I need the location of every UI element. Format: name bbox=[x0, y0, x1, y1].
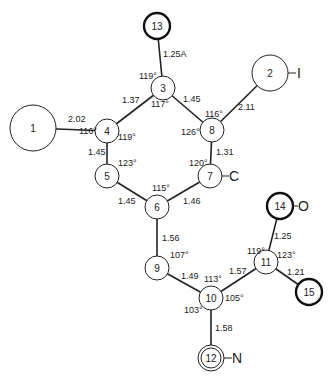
bond-length-4-5: 1.45 bbox=[88, 147, 106, 157]
element-label-carbon: C bbox=[229, 168, 239, 184]
svg-text:3: 3 bbox=[160, 83, 166, 94]
atom-4: 4 bbox=[95, 119, 119, 143]
angle-9: 107° bbox=[170, 250, 189, 260]
element-label-iodine: I bbox=[297, 65, 301, 81]
atom-12: 12 N bbox=[198, 345, 242, 371]
bond-length-4-3: 1.37 bbox=[122, 95, 140, 105]
atom-15: 15 bbox=[296, 279, 322, 305]
bond-length-labels: 2.02 1.37 1.25A 1.45 2.11 1.45 1.31 1.45… bbox=[68, 49, 305, 333]
angle-10-b: 105° bbox=[225, 293, 244, 303]
svg-text:7: 7 bbox=[207, 171, 213, 182]
svg-text:1: 1 bbox=[30, 123, 36, 134]
angle-11-b: 123° bbox=[277, 250, 296, 260]
bond-length-8-7: 1.31 bbox=[216, 147, 234, 157]
bond-length-10-12: 1.58 bbox=[215, 323, 233, 333]
bond-length-8-2: 2.11 bbox=[238, 102, 255, 112]
bond-length-11-14: 1.25 bbox=[274, 231, 292, 241]
angle-6: 115° bbox=[152, 183, 170, 193]
angle-11-a: 119° bbox=[247, 246, 265, 256]
angle-5: 123° bbox=[118, 158, 137, 168]
angle-3-a: 119° bbox=[139, 71, 157, 81]
element-label-oxygen: O bbox=[298, 198, 309, 214]
bond-length-9-10: 1.49 bbox=[181, 271, 199, 281]
angle-8-a: 116° bbox=[205, 109, 223, 119]
bond-length-3-8: 1.45 bbox=[183, 94, 201, 104]
svg-text:15: 15 bbox=[303, 287, 315, 298]
atom-1: 1 bbox=[10, 105, 56, 151]
molecular-structure-diagram: 1 2 I 3 4 5 6 7 C 8 9 10 11 bbox=[0, 0, 336, 382]
bond-length-6-9: 1.56 bbox=[162, 233, 180, 243]
svg-text:6: 6 bbox=[154, 202, 160, 213]
atom-2: 2 I bbox=[252, 55, 301, 91]
bond-length-11-15: 1.21 bbox=[287, 267, 305, 277]
angle-10-a: 113° bbox=[204, 274, 222, 284]
svg-text:8: 8 bbox=[209, 125, 215, 136]
atom-5: 5 bbox=[95, 164, 119, 188]
bond-length-5-6: 1.45 bbox=[118, 196, 136, 206]
angle-4-a: 116° bbox=[79, 126, 97, 136]
svg-text:11: 11 bbox=[261, 257, 272, 268]
bond-length-1-4: 2.02 bbox=[68, 114, 86, 124]
svg-text:4: 4 bbox=[104, 126, 110, 137]
svg-text:12: 12 bbox=[205, 353, 217, 364]
svg-text:2: 2 bbox=[267, 68, 273, 79]
atom-8: 8 bbox=[200, 118, 224, 142]
angle-3-b: 117° bbox=[151, 99, 169, 109]
element-label-nitrogen: N bbox=[232, 350, 242, 366]
svg-text:13: 13 bbox=[151, 21, 163, 32]
bond-length-6-7: 1.46 bbox=[183, 196, 201, 206]
svg-text:10: 10 bbox=[205, 293, 217, 304]
atom-6: 6 bbox=[145, 195, 169, 219]
atom-14: 14 O bbox=[267, 193, 309, 219]
svg-text:5: 5 bbox=[104, 171, 110, 182]
svg-text:9: 9 bbox=[154, 263, 160, 274]
bond-length-10-11: 1.57 bbox=[229, 266, 247, 276]
angle-7: 120° bbox=[189, 158, 208, 168]
angle-10-c: 103° bbox=[184, 305, 203, 315]
svg-text:14: 14 bbox=[274, 201, 286, 212]
angle-8-b: 126° bbox=[181, 127, 200, 137]
bond-length-3-13: 1.25A bbox=[163, 49, 187, 59]
atom-13: 13 bbox=[144, 13, 170, 39]
angle-4-b: 119° bbox=[118, 132, 136, 142]
atom-9: 9 bbox=[145, 256, 169, 280]
